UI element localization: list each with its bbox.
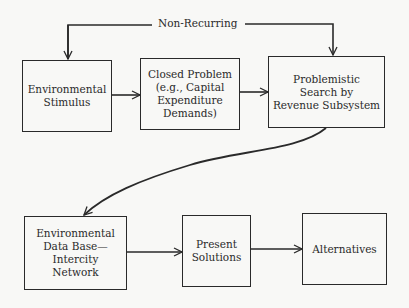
node-line: Data Base— (36, 240, 115, 253)
node-environmental-stimulus: Environmental Stimulus (22, 60, 112, 132)
node-line: Network (36, 266, 115, 279)
node-line: (e.g., Capital (148, 81, 232, 94)
node-line: Intercity (36, 253, 115, 266)
flowchart-canvas: Non-Recurring Environmental Stimulus Clo… (0, 0, 409, 308)
node-line: Stimulus (28, 96, 107, 109)
node-line: Search by (273, 86, 380, 99)
node-line: Revenue Subsystem (273, 99, 380, 112)
node-line: Alternatives (312, 243, 377, 256)
node-line: Closed Problem (148, 68, 232, 81)
node-problemistic-search: Problemistic Search by Revenue Subsystem (268, 56, 385, 128)
node-line: Demands) (148, 107, 232, 120)
node-line: Present (192, 238, 242, 251)
node-closed-problem: Closed Problem (e.g., Capital Expenditur… (140, 58, 240, 130)
arrow-search-to-database (84, 128, 326, 215)
non-recurring-label: Non-Recurring (152, 17, 243, 29)
node-line: Environmental (36, 227, 115, 240)
node-line: Expenditure (148, 94, 232, 107)
node-line: Environmental (28, 83, 107, 96)
node-alternatives: Alternatives (302, 213, 387, 285)
non-recurring-connector (68, 24, 333, 59)
node-environmental-data-base: Environmental Data Base— Intercity Netwo… (24, 216, 127, 290)
node-line: Problemistic (273, 73, 380, 86)
node-line: Solutions (192, 251, 242, 264)
node-present-solutions: Present Solutions (182, 215, 251, 287)
